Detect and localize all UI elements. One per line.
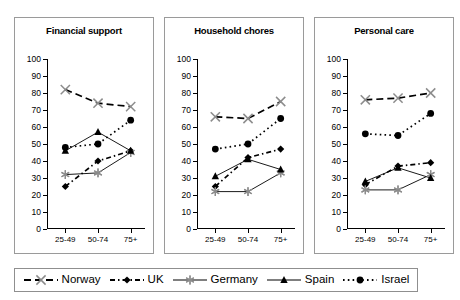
series-line — [215, 102, 280, 119]
legend-label: Israel — [381, 274, 409, 286]
y-axis-label: 10 — [182, 207, 191, 217]
x-axis-label: 25-49 — [55, 235, 75, 244]
x-axis-label: 25-49 — [355, 235, 375, 244]
y-axis-label: 30 — [332, 173, 341, 183]
legend-label: UK — [148, 274, 164, 286]
legend-item: Israel — [342, 273, 409, 287]
y-axis-label: 60 — [32, 122, 41, 132]
x-axis-tick — [98, 229, 99, 233]
y-axis-label: 10 — [332, 207, 341, 217]
plot-area: 010203040506070809010025-4950-7475+ — [347, 59, 445, 229]
y-axis-label: 90 — [32, 71, 41, 81]
legend-item: Spain — [266, 273, 334, 287]
x-axis-tick — [365, 229, 366, 233]
y-axis-label: 50 — [182, 139, 191, 149]
chart-panel: Personal care010203040506070809010025-49… — [314, 17, 454, 254]
series-layer — [347, 59, 445, 229]
x-axis-tick — [65, 229, 66, 233]
chart-panel: Financial support01020304050607080901002… — [14, 17, 154, 254]
y-axis-label: 80 — [182, 88, 191, 98]
y-axis-label: 60 — [332, 122, 341, 132]
x-axis-tick — [431, 229, 432, 233]
y-axis-label: 10 — [32, 207, 41, 217]
legend-label: Spain — [305, 274, 334, 286]
triangle-icon — [266, 273, 302, 287]
x-axis-label: 75+ — [274, 235, 288, 244]
y-axis-label: 90 — [332, 71, 341, 81]
y-axis-label: 40 — [182, 156, 191, 166]
y-axis-label: 80 — [332, 88, 341, 98]
y-axis-label: 0 — [36, 224, 41, 234]
y-axis-label: 70 — [332, 105, 341, 115]
legend-label: Norway — [62, 274, 101, 286]
series-layer — [197, 59, 295, 229]
y-axis-label: 50 — [32, 139, 41, 149]
legend-item: Germany — [172, 273, 258, 287]
y-axis-label: 70 — [32, 105, 41, 115]
plot-area: 010203040506070809010025-4950-7475+ — [47, 59, 145, 229]
y-axis-tick — [43, 229, 47, 230]
x-axis-tick — [398, 229, 399, 233]
y-axis-label: 90 — [182, 71, 191, 81]
y-axis-label: 20 — [32, 190, 41, 200]
x-axis-tick — [281, 229, 282, 233]
x-axis-label: 75+ — [424, 235, 438, 244]
x-axis-tick — [248, 229, 249, 233]
y-axis-label: 0 — [336, 224, 341, 234]
panel-title: Household chores — [165, 25, 303, 36]
asterisk-icon — [172, 273, 208, 287]
y-axis-label: 100 — [177, 54, 191, 64]
y-axis-label: 20 — [332, 190, 341, 200]
chart-legend: NorwayUKGermanySpainIsrael — [14, 268, 418, 292]
plot-area: 010203040506070809010025-4950-7475+ — [197, 59, 295, 229]
cross-x-icon — [23, 273, 59, 287]
y-axis-label: 40 — [332, 156, 341, 166]
y-axis-label: 0 — [186, 224, 191, 234]
legend-item: UK — [109, 273, 164, 287]
series-layer — [47, 59, 145, 229]
y-axis-label: 30 — [32, 173, 41, 183]
x-axis-label: 25-49 — [205, 235, 225, 244]
panel-title: Financial support — [15, 25, 153, 36]
diamond-icon — [109, 273, 145, 287]
y-axis-label: 40 — [32, 156, 41, 166]
y-axis-label: 30 — [182, 173, 191, 183]
y-axis-label: 50 — [332, 139, 341, 149]
x-axis-label: 75+ — [124, 235, 138, 244]
x-axis-tick — [131, 229, 132, 233]
y-axis-label: 60 — [182, 122, 191, 132]
y-axis-tick — [343, 229, 347, 230]
x-axis-label: 50-74 — [88, 235, 108, 244]
panel-row: Financial support01020304050607080901002… — [0, 0, 460, 256]
legend-label: Germany — [211, 274, 258, 286]
x-axis-tick — [215, 229, 216, 233]
y-axis-label: 20 — [182, 190, 191, 200]
y-axis-tick — [193, 229, 197, 230]
x-axis-label: 50-74 — [238, 235, 258, 244]
y-axis-label: 100 — [27, 54, 41, 64]
panel-title: Personal care — [315, 25, 453, 36]
y-axis-label: 70 — [182, 105, 191, 115]
legend-item: Norway — [23, 273, 101, 287]
chart-panel: Household chores010203040506070809010025… — [164, 17, 304, 254]
y-axis-label: 80 — [32, 88, 41, 98]
circle-icon — [342, 273, 378, 287]
x-axis-label: 50-74 — [388, 235, 408, 244]
y-axis-label: 100 — [327, 54, 341, 64]
chart-figure: Financial support01020304050607080901002… — [0, 0, 460, 300]
